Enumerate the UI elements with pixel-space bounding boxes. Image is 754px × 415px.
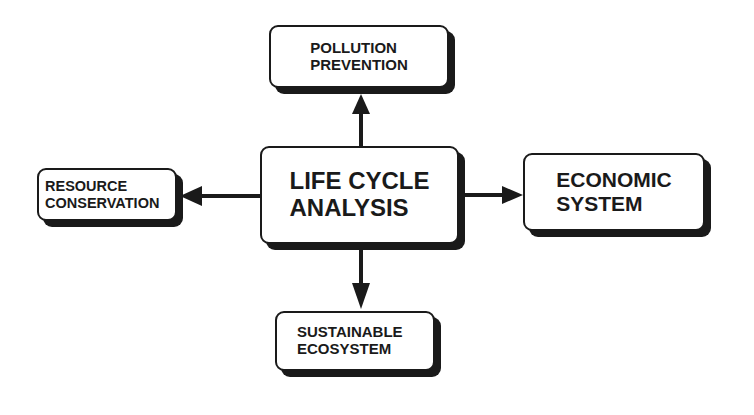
arrowhead-up [352,94,370,114]
node-life-cycle-analysis: LIFE CYCLE ANALYSIS [260,146,459,244]
node-sustainable-ecosystem: SUSTAINABLE ECOSYSTEM [275,311,435,371]
node-label-line1: POLLUTION [310,40,408,57]
node-label-line1: ECONOMIC [556,168,672,192]
node-pollution-prevention: POLLUTION PREVENTION [269,25,449,88]
arrowhead-down [352,283,370,309]
node-label-line1: RESOURCE [45,178,159,194]
node-label-line2: SYSTEM [556,192,672,216]
node-label-line1: SUSTAINABLE [297,324,403,341]
node-label-line2: PREVENTION [310,57,408,74]
arrowhead-left [180,186,202,206]
node-label-line2: CONSERVATION [45,195,159,211]
node-label-line2: ECOSYSTEM [297,341,403,358]
node-label-line1: LIFE CYCLE [289,168,429,195]
arrowhead-right [502,186,523,204]
node-label-line2: ANALYSIS [289,195,429,222]
node-economic-system: ECONOMIC SYSTEM [523,153,705,231]
node-resource-conservation: RESOURCE CONSERVATION [37,168,177,221]
